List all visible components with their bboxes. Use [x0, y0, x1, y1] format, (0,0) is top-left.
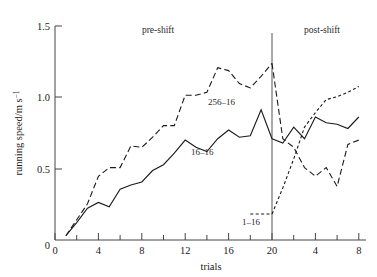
x-tick-label-0: 0: [52, 245, 57, 256]
y-tick-label-1.5: 1.5: [37, 21, 50, 32]
y-axis-title-group: running speed/m s−1: [12, 90, 25, 175]
y-axis-title-exponent: −1: [12, 90, 21, 98]
x-tick-label-20: 20: [267, 245, 278, 256]
y-tick-group: 1.5 1.0 0.5 0: [37, 21, 62, 251]
series-label-16-16: 16–16: [191, 147, 214, 157]
y-axis-title: running speed/m s−1: [12, 90, 25, 175]
series-1-16-postshift: [272, 87, 359, 215]
series-label-1-16: 1–16: [242, 217, 261, 227]
x-tick-label-8: 8: [139, 245, 144, 256]
y-tick-label-1.0: 1.0: [37, 92, 50, 103]
series-256-16-preshift: [66, 63, 272, 235]
x-tick-label-post-4: 4: [313, 245, 319, 256]
chart-svg: 1.5 1.0 0.5 0 0 4 8 12 16: [0, 0, 377, 277]
x-tick-label-post-8: 8: [356, 245, 361, 256]
x-axis-title: trials: [201, 261, 222, 272]
x-tick-group: 0 4 8 12 16 20 4 8: [52, 233, 361, 256]
x-tick-label-16: 16: [223, 245, 234, 256]
chart-figure: 1.5 1.0 0.5 0 0 4 8 12 16: [0, 0, 377, 277]
x-tick-label-4: 4: [96, 245, 102, 256]
series-16-16-postshift: [272, 117, 359, 143]
annotation-post-shift: post-shift: [304, 25, 340, 35]
series-256-16-postshift: [272, 63, 359, 186]
axes-group: [55, 26, 366, 240]
series-label-256-16: 256–16: [208, 97, 236, 107]
x-tick-label-12: 12: [180, 245, 191, 256]
annotation-pre-shift: pre-shift: [142, 25, 175, 35]
y-tick-label-0: 0: [45, 240, 50, 251]
y-tick-label-0.5: 0.5: [37, 164, 50, 175]
y-axis-title-main: running speed/m s: [13, 98, 24, 175]
